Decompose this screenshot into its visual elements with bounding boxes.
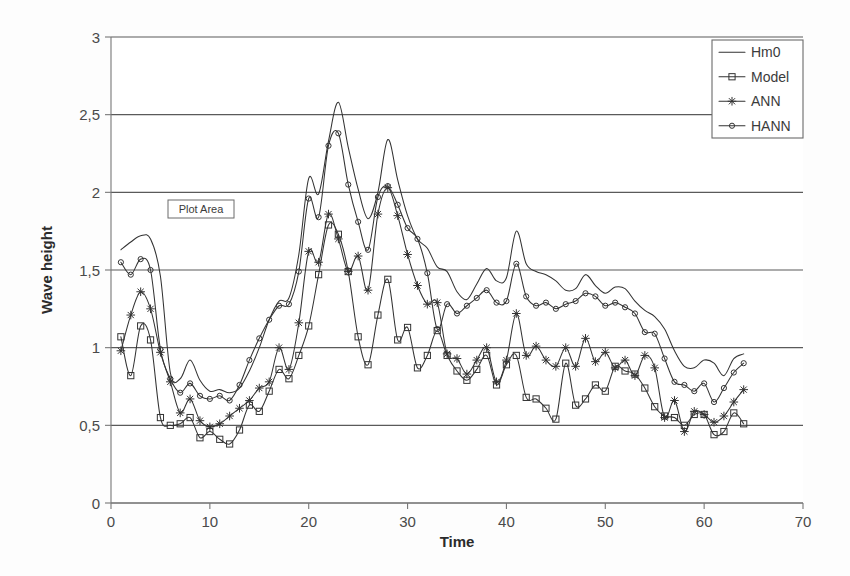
marker-asterisk	[601, 348, 610, 357]
marker-asterisk	[334, 235, 343, 244]
marker-asterisk	[522, 351, 531, 360]
marker-asterisk	[206, 423, 215, 432]
marker-asterisk	[215, 419, 224, 428]
x-tick-label: 10	[202, 513, 219, 530]
marker-asterisk	[472, 356, 481, 365]
marker-asterisk	[255, 384, 264, 393]
marker-asterisk	[225, 412, 234, 421]
marker-asterisk	[492, 378, 501, 387]
chart-canvas: 00,511,522,53010203040506070Hm0ModelANNH…	[0, 0, 850, 576]
marker-asterisk	[364, 286, 373, 295]
marker-asterisk	[314, 258, 323, 267]
marker-asterisk	[146, 305, 155, 314]
marker-asterisk	[275, 343, 284, 352]
chart-container: 00,511,522,53010203040506070Hm0ModelANNH…	[0, 0, 850, 576]
marker-asterisk	[482, 343, 491, 352]
x-tick-label: 0	[107, 513, 115, 530]
marker-asterisk	[561, 343, 570, 352]
marker-asterisk	[720, 412, 729, 421]
x-axis-ticks: 010203040506070	[107, 503, 812, 530]
marker-asterisk	[235, 404, 244, 413]
y-tick-label: 1,5	[79, 262, 100, 279]
marker-asterisk	[433, 298, 442, 307]
marker-asterisk	[295, 319, 304, 328]
marker-asterisk	[621, 356, 630, 365]
marker-asterisk	[591, 357, 600, 366]
marker-asterisk	[176, 409, 185, 418]
y-axis-ticks: 00,511,522,53	[79, 29, 111, 512]
x-tick-label: 60	[696, 513, 713, 530]
marker-asterisk	[730, 398, 739, 407]
marker-asterisk	[344, 267, 353, 276]
marker-asterisk	[423, 300, 432, 309]
marker-asterisk	[641, 351, 650, 360]
plot-area-tooltip-label: Plot Area	[179, 203, 225, 215]
marker-asterisk	[413, 281, 422, 290]
marker-asterisk	[117, 346, 126, 355]
x-tick-label: 40	[498, 513, 515, 530]
marker-asterisk	[542, 356, 551, 365]
marker-asterisk	[571, 362, 580, 371]
marker-asterisk	[512, 309, 521, 318]
marker-asterisk	[728, 97, 737, 106]
marker-asterisk	[126, 311, 135, 320]
marker-asterisk	[739, 385, 748, 394]
marker-asterisk	[532, 342, 541, 351]
marker-asterisk	[502, 356, 511, 365]
marker-asterisk	[324, 210, 333, 219]
x-tick-label: 30	[399, 513, 416, 530]
marker-asterisk	[680, 427, 689, 436]
marker-asterisk	[354, 252, 363, 261]
marker-asterisk	[631, 371, 640, 380]
marker-asterisk	[710, 418, 719, 427]
marker-asterisk	[581, 334, 590, 343]
legend-label-model: Model	[751, 69, 789, 85]
legend-label-hann: HANN	[751, 118, 791, 134]
marker-asterisk	[196, 416, 205, 425]
legend-label-ann: ANN	[751, 93, 781, 109]
x-tick-label: 70	[795, 513, 812, 530]
x-tick-label: 50	[597, 513, 614, 530]
marker-asterisk	[136, 287, 145, 296]
marker-asterisk	[285, 365, 294, 374]
marker-asterisk	[660, 413, 669, 422]
y-tick-label: 3	[92, 29, 100, 46]
marker-asterisk	[443, 350, 452, 359]
marker-asterisk	[552, 362, 561, 371]
marker-asterisk	[453, 354, 462, 363]
marker-asterisk	[650, 364, 659, 373]
marker-asterisk	[463, 370, 472, 379]
y-tick-label: 2	[92, 184, 100, 201]
marker-asterisk	[611, 364, 620, 373]
y-tick-label: 1	[92, 339, 100, 356]
y-tick-label: 2,5	[79, 106, 100, 123]
y-tick-label: 0	[92, 495, 100, 512]
legend-label-hm0: Hm0	[751, 44, 781, 60]
marker-asterisk	[304, 247, 313, 256]
plot-area-tooltip: Plot Area	[168, 200, 234, 218]
marker-asterisk	[670, 396, 679, 405]
x-tick-label: 20	[300, 513, 317, 530]
marker-asterisk	[403, 250, 412, 259]
legend: Hm0ModelANNHANN	[712, 40, 803, 138]
marker-asterisk	[700, 410, 709, 419]
marker-asterisk	[265, 378, 274, 387]
marker-asterisk	[245, 396, 254, 405]
y-tick-label: 0,5	[79, 417, 100, 434]
marker-asterisk	[186, 395, 195, 404]
marker-asterisk	[690, 407, 699, 416]
